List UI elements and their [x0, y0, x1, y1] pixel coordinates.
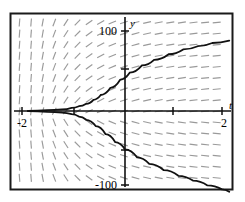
- slope-dash: [19, 41, 20, 49]
- slope-dash: [31, 19, 32, 27]
- plot-canvas: 100 -100 -2 2 y t: [0, 0, 245, 202]
- slope-dash: [31, 163, 32, 171]
- slope-dash: [213, 67, 221, 68]
- slope-dash: [19, 152, 20, 160]
- slope-field-figure: 100 -100 -2 2 y t: [0, 0, 245, 202]
- slope-dash: [19, 174, 20, 182]
- slope-dash: [19, 163, 20, 171]
- x-tick-label-neg2: -2: [17, 116, 27, 130]
- slope-dash: [213, 33, 221, 34]
- slope-dash: [213, 178, 221, 179]
- slope-dash: [213, 166, 221, 167]
- slope-dash: [19, 85, 20, 93]
- slope-dash: [213, 78, 221, 79]
- slope-dash: [31, 30, 32, 38]
- slope-dash: [213, 89, 221, 90]
- slope-dash: [31, 63, 32, 71]
- slope-dash: [19, 52, 20, 60]
- slope-dash: [31, 152, 32, 160]
- slope-dash: [19, 74, 20, 82]
- slope-dash: [19, 141, 20, 149]
- slope-dash: [31, 74, 32, 82]
- x-tick-label-2: 2: [221, 116, 227, 130]
- slope-dash: [31, 85, 32, 93]
- y-tick-label-neg100: -100: [95, 178, 117, 192]
- slope-dash: [213, 100, 221, 101]
- slope-dash: [213, 44, 221, 45]
- slope-dash: [19, 19, 20, 27]
- slope-dash: [213, 122, 221, 123]
- slope-dash: [213, 133, 221, 134]
- slope-dash: [31, 118, 32, 126]
- slope-dash: [19, 30, 20, 38]
- slope-dash: [31, 96, 32, 104]
- slope-dash: [213, 55, 221, 56]
- slope-dash: [31, 41, 32, 49]
- y-axis-label: y: [129, 17, 135, 29]
- slope-dash: [213, 22, 221, 23]
- slope-dash: [19, 96, 20, 104]
- y-tick-label-100: 100: [99, 24, 117, 38]
- slope-dash: [213, 144, 221, 145]
- slope-dash: [31, 130, 32, 138]
- slope-dash: [213, 155, 221, 156]
- slope-dash: [19, 63, 20, 71]
- slope-dash: [31, 174, 32, 182]
- slope-dash: [31, 141, 32, 149]
- slope-dash: [31, 52, 32, 60]
- slope-dash: [19, 130, 20, 138]
